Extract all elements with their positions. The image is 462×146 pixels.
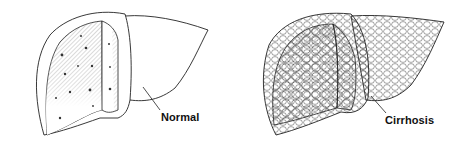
cirrhosis-label: Cirrhosis xyxy=(385,114,434,126)
normal-liver-panel: Normal xyxy=(0,0,231,146)
normal-liver-illustration xyxy=(0,0,231,146)
cirrhosis-liver-panel: Cirrhosis xyxy=(231,0,462,146)
normal-label: Normal xyxy=(161,111,200,123)
